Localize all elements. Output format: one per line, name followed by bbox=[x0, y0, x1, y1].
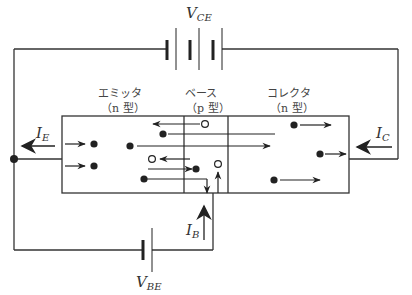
label-ie: IE bbox=[36, 124, 49, 143]
battery-vce bbox=[167, 28, 222, 70]
holes bbox=[149, 121, 222, 168]
region-base-name: ベース bbox=[185, 84, 217, 100]
electrons bbox=[90, 121, 323, 183]
region-emitter-name: エミッタ bbox=[98, 84, 142, 100]
label-ic: IC bbox=[376, 124, 390, 143]
region-collector-type: （n 型） bbox=[270, 99, 314, 115]
label-ib: IB bbox=[186, 221, 199, 240]
region-base-type: （p 型） bbox=[186, 99, 230, 115]
circuit-drawing bbox=[0, 0, 412, 295]
region-emitter-type: （n 型） bbox=[101, 99, 145, 115]
junction-node bbox=[10, 155, 18, 163]
region-collector-name: コレクタ bbox=[267, 84, 311, 100]
label-vce: VCE bbox=[186, 4, 212, 23]
label-vbe: VBE bbox=[136, 273, 162, 292]
battery-vbe bbox=[143, 228, 152, 272]
npn-transistor-diagram: VCE VBE IE IC IB エミッタ （n 型） ベース （p 型） コレ… bbox=[0, 0, 412, 295]
